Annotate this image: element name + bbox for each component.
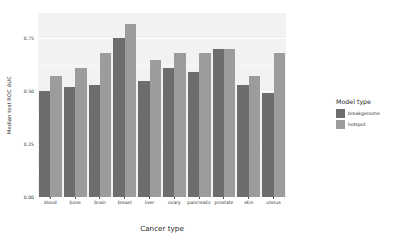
- x-tick-label: breast: [112, 200, 137, 212]
- bar-group: [63, 13, 88, 197]
- legend-swatch: [336, 120, 345, 129]
- bar: [50, 76, 61, 197]
- legend: Model type breakgenomehotspot: [336, 98, 394, 131]
- bar: [39, 91, 50, 197]
- x-axis-tick-labels: bloodbonebrainbreastliverovarypancreatic…: [38, 200, 286, 212]
- bar: [188, 72, 199, 197]
- legend-key: [336, 120, 345, 129]
- y-tick-label: 0.75: [14, 36, 34, 41]
- x-tick-label: blood: [38, 200, 63, 212]
- bar: [237, 85, 248, 197]
- legend-title: Model type: [336, 98, 394, 105]
- legend-swatch: [336, 109, 345, 118]
- x-tick-label: uterus: [261, 200, 286, 212]
- bar-group: [88, 13, 113, 197]
- bar: [64, 87, 75, 197]
- legend-label: breakgenome: [348, 111, 380, 116]
- plot-panel: [38, 13, 286, 197]
- bar-group: [112, 13, 137, 197]
- y-tick-label: 0.25: [14, 142, 34, 147]
- x-tick-label: ovary: [162, 200, 187, 212]
- legend-label: hotspot: [348, 122, 365, 127]
- bar-group: [212, 13, 237, 197]
- chart-figure: Median test ROC AUC 0.000.250.500.75 blo…: [0, 0, 396, 242]
- bar: [274, 53, 285, 197]
- bar: [75, 68, 86, 197]
- x-tick-label: liver: [137, 200, 162, 212]
- x-tick-label: brain: [88, 200, 113, 212]
- y-tick-label: 0.00: [14, 195, 34, 200]
- bar: [113, 38, 124, 197]
- bar: [224, 49, 235, 197]
- x-tick-label: pancreatic: [187, 200, 212, 212]
- bar: [262, 93, 273, 197]
- bar: [163, 68, 174, 197]
- bar: [89, 85, 100, 197]
- bar: [174, 53, 185, 197]
- bar: [199, 53, 210, 197]
- bar: [249, 76, 260, 197]
- bar: [138, 81, 149, 197]
- x-tick-label: bone: [63, 200, 88, 212]
- bar-group: [261, 13, 286, 197]
- bar: [150, 60, 161, 197]
- x-tick-label: skin: [236, 200, 261, 212]
- bar-group: [236, 13, 261, 197]
- legend-items: breakgenomehotspot: [336, 109, 394, 129]
- legend-item[interactable]: hotspot: [336, 120, 394, 129]
- legend-key: [336, 109, 345, 118]
- bar-series-container: [38, 13, 286, 197]
- bar-group: [162, 13, 187, 197]
- bar: [100, 53, 111, 197]
- bar-group: [187, 13, 212, 197]
- bar: [125, 24, 136, 197]
- bar-group: [137, 13, 162, 197]
- y-axis-ticks: 0.000.250.500.75: [14, 0, 34, 242]
- y-axis-title-text: Median test ROC AUC: [6, 76, 12, 134]
- x-tick-label: prostate: [212, 200, 237, 212]
- x-axis-title: Cancer type: [38, 224, 286, 233]
- y-tick-label: 0.50: [14, 89, 34, 94]
- legend-item[interactable]: breakgenome: [336, 109, 394, 118]
- bar-group: [38, 13, 63, 197]
- bar: [213, 49, 224, 197]
